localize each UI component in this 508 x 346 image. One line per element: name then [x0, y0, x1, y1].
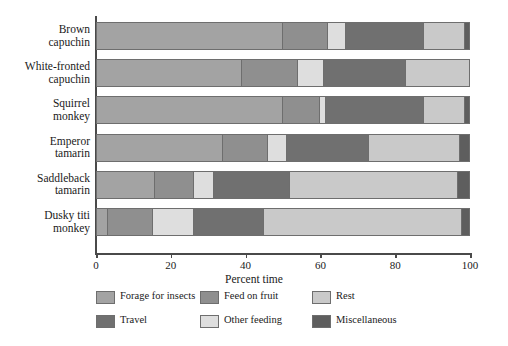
bar-segment[interactable]	[97, 23, 283, 49]
x-axis-tick-label: 60	[315, 259, 326, 271]
x-axis-tick-mark	[246, 253, 248, 258]
legend-swatch	[312, 315, 331, 328]
bar-segment[interactable]	[406, 60, 469, 86]
legend-label: Other feeding	[224, 314, 282, 325]
legend-swatch	[96, 291, 115, 304]
legend-item[interactable]: Rest	[312, 290, 426, 312]
x-axis-line	[95, 253, 471, 255]
bar-segment[interactable]	[97, 60, 242, 86]
bar-segment[interactable]	[194, 172, 214, 198]
legend-item[interactable]: Travel	[96, 314, 200, 336]
bar-segment[interactable]	[97, 135, 223, 161]
bar-segment[interactable]	[298, 60, 324, 86]
bar-segment[interactable]	[283, 97, 320, 123]
bar-segment[interactable]	[283, 23, 328, 49]
x-axis-tick-label: 0	[93, 259, 99, 271]
bar-row[interactable]	[96, 171, 470, 199]
bar-segment[interactable]	[460, 135, 469, 161]
bar-segment[interactable]	[97, 209, 108, 235]
category-label: Saddlebacktamarin	[0, 172, 90, 197]
bar-segment[interactable]	[242, 60, 298, 86]
legend-swatch	[200, 315, 219, 328]
bar-segment[interactable]	[424, 97, 465, 123]
legend-label: Feed on fruit	[224, 290, 278, 301]
x-axis-tick-label: 40	[240, 259, 251, 271]
category-label: Dusky titimonkey	[0, 209, 90, 234]
x-axis-tick-mark	[96, 253, 98, 258]
bar-segment[interactable]	[155, 172, 194, 198]
bar-row[interactable]	[96, 134, 470, 162]
legend-swatch	[312, 291, 331, 304]
category-label: Emperortamarin	[0, 135, 90, 160]
category-label: White-frontedcapuchin	[0, 60, 90, 85]
chart-legend: Forage for insectsFeed on fruitRestTrave…	[96, 290, 426, 336]
legend-label: Forage for insects	[120, 290, 195, 301]
bar-segment[interactable]	[465, 23, 469, 49]
bar-segment[interactable]	[458, 172, 469, 198]
bar-segment[interactable]	[214, 172, 290, 198]
category-label: Squirrelmonkey	[0, 97, 90, 122]
bar-segment[interactable]	[268, 135, 287, 161]
bar-segment[interactable]	[153, 209, 194, 235]
bar-segment[interactable]	[97, 97, 283, 123]
x-axis-tick-mark	[395, 253, 397, 258]
bar-segment[interactable]	[223, 135, 268, 161]
legend-item[interactable]: Forage for insects	[96, 290, 200, 312]
x-axis-title: Percent time	[0, 273, 508, 285]
bar-segment[interactable]	[108, 209, 153, 235]
bar-segment[interactable]	[324, 60, 406, 86]
stacked-bar-chart: BrowncapuchinWhite-frontedcapuchinSquirr…	[0, 0, 508, 346]
bar-segment[interactable]	[462, 209, 469, 235]
bar-segment[interactable]	[465, 97, 469, 123]
x-axis-tick-label: 100	[462, 259, 479, 271]
bar-row[interactable]	[96, 22, 470, 50]
legend-swatch	[96, 315, 115, 328]
legend-item[interactable]: Other feeding	[200, 314, 312, 336]
bar-segment[interactable]	[346, 23, 424, 49]
legend-label: Rest	[336, 290, 355, 301]
legend-swatch	[200, 291, 219, 304]
bar-row[interactable]	[96, 96, 470, 124]
x-axis-tick-mark	[320, 253, 322, 258]
legend-label: Travel	[120, 314, 147, 325]
x-axis-tick-label: 80	[390, 259, 401, 271]
bar-row[interactable]	[96, 208, 470, 236]
legend-label: Miscellaneous	[336, 314, 397, 325]
x-axis-tick-label: 20	[165, 259, 176, 271]
legend-item[interactable]: Miscellaneous	[312, 314, 426, 336]
bar-segment[interactable]	[369, 135, 460, 161]
plot-area	[96, 16, 470, 252]
bar-segment[interactable]	[97, 172, 155, 198]
bar-segment[interactable]	[194, 209, 265, 235]
bar-segment[interactable]	[290, 172, 457, 198]
legend-item[interactable]: Feed on fruit	[200, 290, 312, 312]
bar-segment[interactable]	[264, 209, 461, 235]
bar-segment[interactable]	[424, 23, 465, 49]
x-axis-tick-mark	[470, 253, 472, 258]
bar-segment[interactable]	[328, 23, 347, 49]
bar-segment[interactable]	[287, 135, 369, 161]
bar-row[interactable]	[96, 59, 470, 87]
bar-segment[interactable]	[326, 97, 425, 123]
category-label: Browncapuchin	[0, 23, 90, 48]
x-axis-tick-mark	[171, 253, 173, 258]
